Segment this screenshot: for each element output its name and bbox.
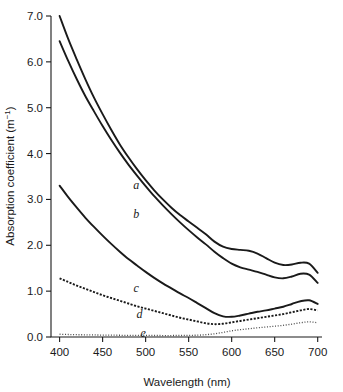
- x-tick-label: 700: [308, 346, 327, 358]
- y-tick-label: 4.0: [27, 148, 43, 160]
- curve-label-e: e: [140, 326, 146, 340]
- y-axis-tick-labels: 0.01.02.03.04.05.06.07.0: [27, 10, 43, 343]
- chart-canvas: 0.01.02.03.04.05.06.07.0 400450500550600…: [0, 0, 343, 392]
- x-axis-ticks: [60, 337, 318, 342]
- y-tick-label: 5.0: [27, 102, 43, 114]
- curve-b: [60, 41, 318, 283]
- curve-labels-group: abcde: [133, 178, 146, 341]
- x-tick-label: 450: [93, 346, 112, 358]
- x-tick-label: 650: [265, 346, 284, 358]
- y-axis-title: Absorption coefficient (m−1): [3, 106, 16, 245]
- axis-spines: [51, 16, 322, 337]
- x-tick-label: 400: [50, 346, 69, 358]
- x-tick-label: 600: [222, 346, 241, 358]
- y-tick-label: 1.0: [27, 285, 43, 297]
- y-tick-label: 0.0: [27, 331, 43, 343]
- y-tick-label: 2.0: [27, 239, 43, 251]
- curve-a: [60, 16, 318, 273]
- x-tick-label: 550: [179, 346, 198, 358]
- curve-e: [60, 322, 318, 336]
- y-tick-label: 6.0: [27, 56, 43, 68]
- curve-label-b: b: [133, 207, 139, 221]
- x-axis-title: Wavelength (nm): [143, 376, 230, 388]
- absorption-spectrum-figure: 0.01.02.03.04.05.06.07.0 400450500550600…: [0, 0, 343, 392]
- data-curves-group: [60, 16, 318, 336]
- curve-label-d: d: [137, 307, 144, 321]
- y-tick-label: 7.0: [27, 10, 43, 22]
- y-tick-label: 3.0: [27, 193, 43, 205]
- y-axis-title-main: Absorption coefficient (m: [4, 119, 16, 245]
- curve-label-a: a: [133, 178, 139, 192]
- curve-c: [60, 186, 318, 317]
- curve-label-c: c: [134, 281, 140, 295]
- y-axis-ticks: [46, 16, 51, 337]
- y-axis-title-tail: ): [4, 106, 16, 110]
- x-axis-tick-labels: 400450500550600650700: [50, 346, 327, 358]
- axes-group: 0.01.02.03.04.05.06.07.0 400450500550600…: [27, 10, 327, 358]
- curve-d: [60, 278, 318, 324]
- x-tick-label: 500: [136, 346, 155, 358]
